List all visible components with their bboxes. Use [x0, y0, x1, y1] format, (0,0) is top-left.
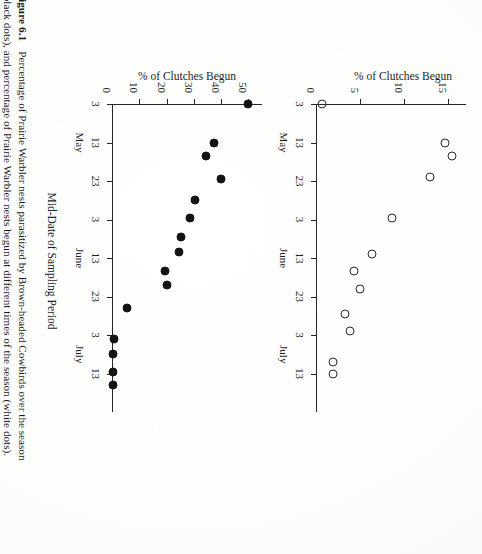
y-axis-title-top: % of Clutches Begun: [354, 70, 452, 82]
y-tick: [194, 99, 195, 104]
data-point: [109, 381, 118, 390]
data-point: [440, 138, 449, 147]
y-tick: [167, 99, 168, 104]
x-tick-label: 13: [90, 137, 101, 148]
x-axis-line-top: [316, 104, 317, 412]
y-tick: [448, 99, 449, 104]
x-axis-title-text: Mid-Date of Sampling Period: [46, 146, 58, 329]
figure-6-1: % of Clutches Begun 3132331323313MayJune…: [0, 0, 482, 554]
y-axis-line-bottom: [112, 104, 262, 105]
x-tick-label: 3: [294, 217, 305, 223]
rotated-page-stage: % of Clutches Begun 3132331323313MayJune…: [0, 0, 482, 554]
x-tick-label: 3: [90, 332, 101, 338]
data-point: [447, 151, 456, 160]
x-tick: [107, 220, 112, 221]
caption-line-1: Figure 6.1Percentage of Prairie Warbler …: [15, 0, 30, 532]
x-tick: [311, 297, 316, 298]
x-tick: [311, 258, 316, 259]
x-tick: [311, 335, 316, 336]
plot-area-top: 3132331323313MayJuneJuly051015: [316, 104, 466, 412]
x-tick-label: 3: [90, 101, 101, 107]
month-label-may: May: [74, 132, 85, 152]
y-axis-title-bottom: % of Clutches Begun: [138, 70, 236, 82]
x-tick-label: 3: [90, 217, 101, 223]
x-tick-label: 13: [90, 368, 101, 379]
y-tick: [221, 99, 222, 104]
x-tick-label: 13: [294, 137, 305, 148]
x-axis-line-bottom: [112, 104, 113, 412]
data-point: [356, 284, 365, 293]
x-axis-title: Mid-Date of Sampling Period: [46, 58, 58, 418]
x-tick-label: 23: [294, 176, 305, 187]
y-axis-line-top: [316, 104, 466, 105]
chart-clutches-begun: % of Clutches Begun 3132331323313MayJune…: [276, 58, 472, 418]
caption-text-line-1: Percentage of Prairie Warbler nests para…: [17, 51, 29, 460]
caption-line-2: (black dots), and percentage of Prairie …: [0, 0, 15, 532]
data-point: [190, 196, 199, 205]
month-label-may: May: [278, 132, 289, 152]
data-point: [163, 280, 172, 289]
x-tick-label: 13: [294, 253, 305, 264]
x-tick: [107, 181, 112, 182]
data-point: [109, 367, 118, 376]
month-label-july: July: [278, 345, 289, 363]
x-tick: [311, 181, 316, 182]
data-point: [328, 369, 337, 378]
data-point: [368, 250, 377, 259]
x-tick: [107, 104, 112, 105]
data-point: [341, 309, 350, 318]
x-tick-label: 23: [294, 291, 305, 302]
data-point: [328, 357, 337, 366]
data-point: [349, 267, 358, 276]
chart-nests-parasitized: % of Clutches Begun 3132331323313MayJune…: [72, 58, 268, 418]
x-tick: [107, 297, 112, 298]
data-point: [387, 213, 396, 222]
axes-top: 3132331323313MayJuneJuly051015: [316, 104, 466, 412]
x-tick-label: 13: [294, 368, 305, 379]
data-point: [177, 232, 186, 241]
data-point: [210, 138, 219, 147]
x-tick: [311, 220, 316, 221]
x-tick: [311, 104, 316, 105]
data-point: [160, 267, 169, 276]
figure-caption: Figure 6.1Percentage of Prairie Warbler …: [0, 0, 30, 532]
plot-area-bottom: 3132331323313MayJuneJuly01020304050: [112, 104, 262, 412]
y-tick: [360, 99, 361, 104]
data-point: [109, 350, 118, 359]
data-point: [318, 100, 327, 109]
x-tick: [107, 258, 112, 259]
month-label-june: June: [278, 248, 289, 268]
x-tick: [107, 143, 112, 144]
month-label-june: June: [74, 248, 85, 268]
x-tick: [311, 143, 316, 144]
data-point: [123, 304, 132, 313]
data-point: [216, 175, 225, 184]
x-tick: [311, 374, 316, 375]
month-label-july: July: [74, 345, 85, 363]
data-point: [425, 173, 434, 182]
figure-number: Figure 6.1: [17, 0, 29, 41]
data-point: [346, 327, 355, 336]
x-tick-label: 23: [90, 291, 101, 302]
data-point: [109, 334, 118, 343]
axes-bottom: 3132331323313MayJuneJuly01020304050: [112, 104, 262, 412]
caption-text-line-2: (black dots), and percentage of Prairie …: [2, 0, 14, 456]
data-point: [244, 100, 253, 109]
data-point: [202, 151, 211, 160]
x-tick-label: 3: [294, 101, 305, 107]
x-tick-label: 23: [90, 176, 101, 187]
data-point: [174, 248, 183, 257]
x-tick-label: 3: [294, 332, 305, 338]
y-tick: [139, 99, 140, 104]
data-point: [185, 213, 194, 222]
y-tick: [404, 99, 405, 104]
x-tick-label: 13: [90, 253, 101, 264]
